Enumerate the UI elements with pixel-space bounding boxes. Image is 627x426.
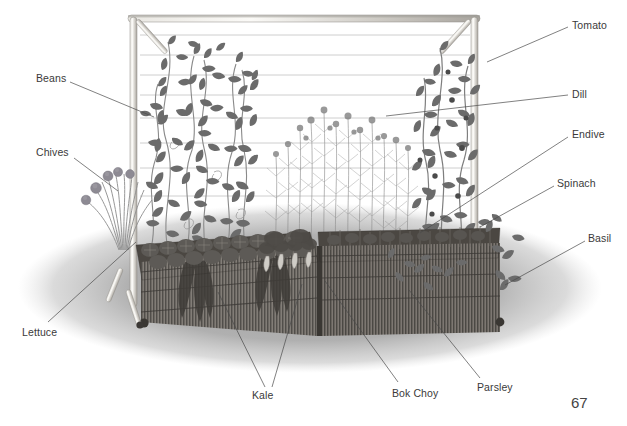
label-spinach: Spinach [557,178,596,189]
label-tomato: Tomato [572,20,607,31]
label-endive: Endive [572,129,605,140]
label-dill: Dill [572,89,587,100]
label-chives: Chives [36,147,69,158]
label-beans: Beans [36,73,66,84]
label-parsley: Parsley [477,382,513,393]
garden-illustration [0,0,627,426]
label-kale: Kale [252,390,273,401]
page-number: 67 [571,394,588,411]
label-bok-choy: Bok Choy [392,388,438,399]
label-lettuce: Lettuce [22,327,57,338]
illustrated-page: Beans Chives Lettuce Kale Bok Choy Parsl… [0,0,627,426]
label-basil: Basil [588,233,611,244]
